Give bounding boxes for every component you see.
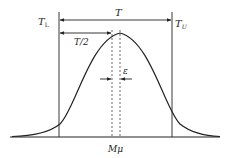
- normal-curve: [12, 33, 220, 137]
- tolerance-label: T: [115, 7, 123, 18]
- lower-limit-label: TL: [38, 16, 49, 28]
- center-label: Mμ: [107, 144, 123, 154]
- upper-limit-label: TU: [175, 18, 188, 30]
- epsilon-label: ε: [123, 66, 128, 76]
- tolerance-diagram: TL TU T T/2 ε Mμ: [0, 0, 231, 158]
- half-tolerance-label: T/2: [74, 37, 89, 47]
